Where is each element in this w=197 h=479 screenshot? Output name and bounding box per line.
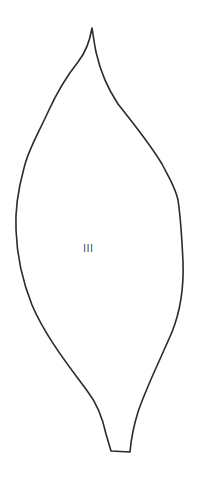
shape-label: III bbox=[83, 243, 94, 254]
leaf-outline-figure bbox=[0, 0, 197, 479]
leaf-outline-shape bbox=[16, 28, 183, 452]
